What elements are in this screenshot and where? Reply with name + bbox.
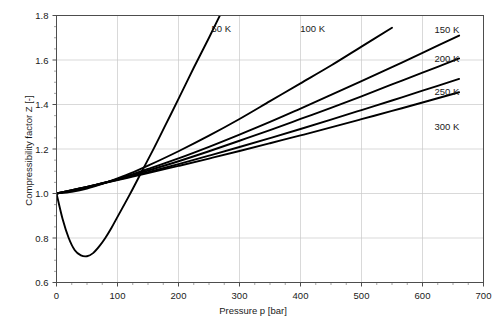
series-label-300-k: 300 K [434, 121, 459, 132]
series-label-200-k: 200 K [434, 53, 459, 64]
plot-canvas: 01002003004005006007000.60.81.01.21.41.6… [0, 0, 502, 326]
y-tick-label: 0.6 [35, 277, 48, 288]
isotherm-curve-100-k [57, 28, 393, 194]
curves-layer [57, 0, 460, 256]
series-label-100-k: 100 K [300, 23, 325, 34]
compressibility-chart: 01002003004005006007000.60.81.01.21.41.6… [0, 0, 502, 326]
x-tick-label: 0 [54, 290, 59, 301]
series-label-250-k: 250 K [434, 86, 459, 97]
isotherm-curve-150-k [57, 36, 460, 194]
x-tick-label: 200 [171, 290, 187, 301]
series-label-150-k: 150 K [434, 24, 459, 35]
grid-layer [57, 16, 484, 283]
y-tick-label: 1.8 [35, 10, 48, 21]
isotherm-curve-50-k [57, 0, 240, 256]
x-tick-label: 700 [476, 290, 492, 301]
x-tick-label: 600 [415, 290, 431, 301]
minor-ticks-layer [54, 27, 468, 285]
series-label-50-k: 50 K [211, 23, 231, 34]
x-tick-label: 500 [354, 290, 370, 301]
x-axis-title: Pressure p [bar] [188, 305, 318, 316]
isotherm-curve-250-k [57, 79, 460, 194]
x-tick-label: 300 [232, 290, 248, 301]
y-tick-label: 0.8 [35, 233, 48, 244]
x-tick-label: 100 [110, 290, 126, 301]
y-tick-label: 1.6 [35, 55, 48, 66]
x-tick-label: 400 [293, 290, 309, 301]
y-tick-label: 1.0 [35, 188, 48, 199]
y-tick-label: 1.2 [35, 144, 48, 155]
y-tick-label: 1.4 [35, 99, 48, 110]
y-axis-title: Compressibility factor Z [-] [23, 76, 34, 226]
